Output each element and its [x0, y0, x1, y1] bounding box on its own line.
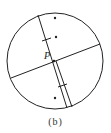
dot-top — [54, 17, 56, 19]
chord-cross — [11, 44, 100, 78]
tick-mark-upper — [42, 38, 51, 41]
chord-main — [38, 15, 67, 108]
point-p-label: P — [43, 50, 50, 61]
geometry-figure: P — [0, 0, 111, 133]
chord-parallel — [56, 61, 72, 107]
figure-caption: (b) — [0, 116, 111, 127]
point-p-marker — [53, 60, 56, 63]
dot-upper — [55, 36, 57, 38]
dot-lower — [54, 97, 56, 99]
